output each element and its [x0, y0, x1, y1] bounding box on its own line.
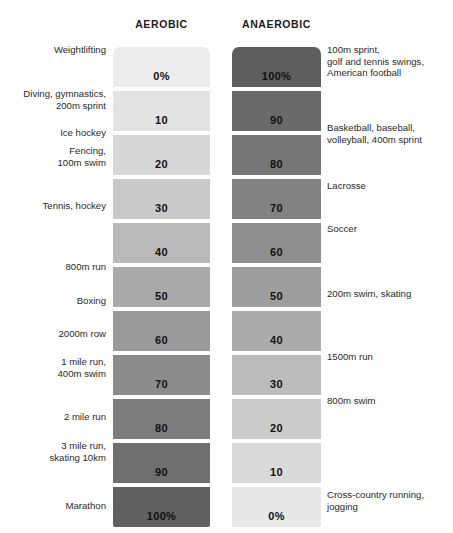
aerobic-sport-label: Boxing [0, 295, 106, 307]
anaerobic-bar-value: 20 [232, 422, 321, 434]
aerobic-bar: 70 [113, 355, 210, 395]
anaerobic-sport-label: 1500m run [327, 351, 453, 363]
aerobic-bar-value: 70 [113, 378, 210, 390]
aerobic-bar-value: 0% [113, 70, 210, 82]
aerobic-sport-label: Weightlifting [0, 44, 106, 56]
aerobic-sport-label: 800m run [0, 261, 106, 273]
anaerobic-bar: 0% [232, 487, 321, 527]
anaerobic-bar-value: 0% [232, 510, 321, 522]
aerobic-bar-value: 50 [113, 290, 210, 302]
aerobic-sport-label: 3 mile run, skating 10km [0, 440, 106, 463]
aerobic-bar: 40 [113, 223, 210, 263]
aerobic-sport-label: 2000m row [0, 328, 106, 340]
anaerobic-sport-label: Lacrosse [327, 180, 453, 192]
aerobic-sport-label: 2 mile run [0, 411, 106, 423]
column-header-aerobic: AEROBIC [113, 18, 210, 30]
anaerobic-bar: 50 [232, 267, 321, 307]
anaerobic-bar: 90 [232, 91, 321, 131]
anaerobic-bar-value: 70 [232, 202, 321, 214]
anaerobic-bar: 30 [232, 355, 321, 395]
aerobic-bar-value: 90 [113, 466, 210, 478]
aerobic-bar: 60 [113, 311, 210, 351]
anaerobic-sport-label: Basketball, baseball, volleyball, 400m s… [327, 122, 453, 145]
anaerobic-sport-label: Cross-country running, jogging [327, 489, 453, 512]
anaerobic-bar-value: 10 [232, 466, 321, 478]
anaerobic-bar-value: 30 [232, 378, 321, 390]
aerobic-bar: 90 [113, 443, 210, 483]
anaerobic-sport-label: 800m swim [327, 395, 453, 407]
anaerobic-bar: 60 [232, 223, 321, 263]
anaerobic-bar-value: 100% [232, 70, 321, 82]
anaerobic-sport-label: 100m sprint, golf and tennis swings, Ame… [327, 44, 453, 79]
aerobic-bar-value: 100% [113, 510, 210, 522]
aerobic-sport-label: Diving, gymnastics, 200m sprint [0, 88, 106, 111]
anaerobic-bar: 10 [232, 443, 321, 483]
anaerobic-bar: 40 [232, 311, 321, 351]
anaerobic-bar-value: 90 [232, 114, 321, 126]
aerobic-bar: 100% [113, 487, 210, 527]
anaerobic-bar: 20 [232, 399, 321, 439]
aerobic-bar: 10 [113, 91, 210, 131]
anaerobic-bar-value: 40 [232, 334, 321, 346]
anaerobic-sport-label: 200m swim, skating [327, 288, 453, 300]
anaerobic-bar: 80 [232, 135, 321, 175]
aerobic-sport-label: Fencing, 100m swim [0, 145, 106, 168]
anaerobic-bar: 100% [232, 47, 321, 87]
aerobic-sport-label: Ice hockey [0, 127, 106, 139]
aerobic-sport-label: 1 mile run, 400m swim [0, 356, 106, 379]
anaerobic-bar-value: 80 [232, 158, 321, 170]
anaerobic-bar-value: 60 [232, 246, 321, 258]
aerobic-bar: 20 [113, 135, 210, 175]
aerobic-bar: 50 [113, 267, 210, 307]
aerobic-anaerobic-chart: AEROBIC ANAEROBIC 0%100%1090208030704060… [0, 0, 453, 533]
anaerobic-bar-value: 50 [232, 290, 321, 302]
aerobic-sport-label: Marathon [0, 500, 106, 512]
aerobic-bar-value: 40 [113, 246, 210, 258]
anaerobic-bar: 70 [232, 179, 321, 219]
column-header-anaerobic: ANAEROBIC [232, 18, 321, 30]
aerobic-bar-value: 80 [113, 422, 210, 434]
aerobic-bar-value: 10 [113, 114, 210, 126]
aerobic-bar: 80 [113, 399, 210, 439]
aerobic-bar: 30 [113, 179, 210, 219]
aerobic-sport-label: Tennis, hockey [0, 200, 106, 212]
aerobic-bar: 0% [113, 47, 210, 87]
anaerobic-sport-label: Soccer [327, 223, 453, 235]
aerobic-bar-value: 20 [113, 158, 210, 170]
aerobic-bar-value: 30 [113, 202, 210, 214]
aerobic-bar-value: 60 [113, 334, 210, 346]
